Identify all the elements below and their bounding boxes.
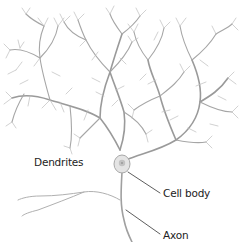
cell-body-label: Cell body: [163, 187, 210, 199]
neuron-illustration: [0, 0, 240, 242]
dendrites-label: Dendrites: [34, 156, 83, 168]
axon-collateral: [18, 191, 120, 216]
cell-body: [114, 155, 130, 173]
axon-label: Axon: [163, 229, 188, 241]
nucleolus: [121, 162, 123, 164]
neuron-diagram: Dendrites Cell body Axon: [0, 0, 240, 242]
leader-lines: [126, 172, 160, 234]
axon: [121, 172, 132, 242]
dendrite-twigs: [4, 6, 238, 154]
